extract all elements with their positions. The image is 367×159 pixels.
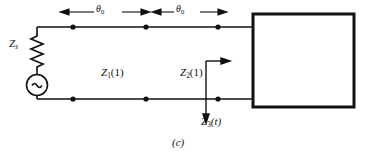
source-impedance-resistor (31, 33, 43, 70)
z2-reference-arrow (206, 58, 230, 64)
node-dot (215, 96, 220, 101)
z3-probe-indicator (203, 61, 209, 123)
node-dot (215, 24, 220, 29)
impedance-label-z3: Z3(t) (201, 116, 221, 129)
node-dot (70, 96, 75, 101)
impedance-label-z1: Z1(1) (101, 67, 124, 80)
source-impedance-label: Zs (9, 38, 18, 51)
impedance-label-z2: Z2(1) (180, 67, 203, 80)
dimension-arrow-right (152, 9, 227, 15)
dimension-label-theta-right: θ0 (176, 4, 184, 15)
figure-caption: (c) (172, 137, 184, 148)
node-dot (143, 24, 148, 29)
circuit-diagram-figure: θ0 θ0 Zs Z1(1) Z2(1) Z3(t) (c) (0, 0, 367, 159)
dimension-label-theta-left: θ0 (96, 4, 104, 15)
load-block (253, 14, 354, 107)
node-dot (143, 96, 148, 101)
node-dot (70, 24, 75, 29)
dimension-arrow-left (60, 9, 150, 15)
